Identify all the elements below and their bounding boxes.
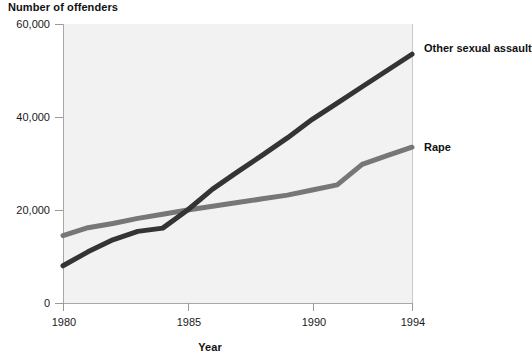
series-label-rape: Rape bbox=[424, 141, 451, 153]
x-tick-label-1994: 1994 bbox=[383, 316, 443, 328]
x-axis-ticks bbox=[64, 303, 413, 311]
x-tick-label-1980: 1980 bbox=[34, 316, 94, 328]
y-tick-label-40000: 40,000 bbox=[2, 111, 50, 123]
y-tick-label-0: 0 bbox=[2, 297, 50, 309]
series-label-other-sexual-assault: Other sexual assault bbox=[424, 42, 532, 54]
x-tick-label-1990: 1990 bbox=[284, 316, 344, 328]
y-tick-label-20000: 20,000 bbox=[2, 204, 50, 216]
y-tick-label-60000: 60,000 bbox=[2, 18, 50, 30]
x-axis-title: Year bbox=[0, 341, 420, 353]
y-axis-ticks bbox=[55, 25, 63, 304]
x-tick-label-1985: 1985 bbox=[159, 316, 219, 328]
